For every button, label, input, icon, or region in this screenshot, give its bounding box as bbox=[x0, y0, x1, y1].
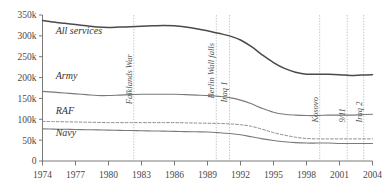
x-tick-label: 1980 bbox=[99, 170, 118, 180]
series-label-raf: RAF bbox=[55, 105, 75, 116]
defence-personnel-line-chart: 050k100k150k200k250k300k350k 19741977198… bbox=[0, 0, 382, 195]
event-label-iraq-1: Iraq 1 bbox=[219, 82, 229, 104]
y-tick-label: 0 bbox=[32, 156, 37, 166]
event-label-falklands-war: Falklands War bbox=[124, 54, 134, 106]
x-axis-ticks: 1974197719801983198619891992199519982001… bbox=[33, 161, 382, 180]
x-tick-label: 1992 bbox=[231, 170, 250, 180]
event-label-berlin-wall-falls: Berlin Wall falls bbox=[206, 42, 216, 98]
y-tick-label: 350k bbox=[18, 10, 37, 20]
x-tick-label: 1977 bbox=[66, 170, 85, 180]
event-gridlines bbox=[134, 15, 364, 161]
series-label-army: Army bbox=[55, 70, 78, 81]
y-tick-label: 300k bbox=[18, 31, 37, 41]
event-label-9-11: 9/11 bbox=[337, 108, 347, 122]
x-tick-label: 2001 bbox=[330, 170, 349, 180]
y-axis-ticks: 050k100k150k200k250k300k350k bbox=[18, 10, 43, 166]
series-line-navy bbox=[43, 129, 373, 144]
event-label-kosovo: Kosovo bbox=[310, 97, 320, 124]
series-labels-group: All servicesArmyRAFNavy bbox=[55, 25, 102, 138]
y-tick-label: 100k bbox=[18, 115, 37, 125]
x-tick-label: 1995 bbox=[264, 170, 283, 180]
x-tick-label: 1986 bbox=[165, 170, 184, 180]
x-tick-label: 1983 bbox=[132, 170, 151, 180]
x-tick-label: 1974 bbox=[33, 170, 52, 180]
event-labels-group: Falklands WarBerlin Wall fallsIraq 1Koso… bbox=[124, 42, 364, 123]
x-tick-label: 2004 bbox=[363, 170, 382, 180]
y-tick-label: 50k bbox=[22, 136, 37, 146]
series-label-navy: Navy bbox=[55, 127, 77, 138]
x-tick-label: 1998 bbox=[297, 170, 316, 180]
series-label-all-services: All services bbox=[55, 25, 102, 36]
y-tick-label: 200k bbox=[18, 73, 37, 83]
event-label-iraq-2: Iraq 2 bbox=[354, 101, 364, 124]
y-tick-label: 150k bbox=[18, 94, 37, 104]
y-tick-label: 250k bbox=[18, 52, 37, 62]
x-tick-label: 1989 bbox=[198, 170, 217, 180]
chart-canvas: 050k100k150k200k250k300k350k 19741977198… bbox=[0, 0, 382, 195]
